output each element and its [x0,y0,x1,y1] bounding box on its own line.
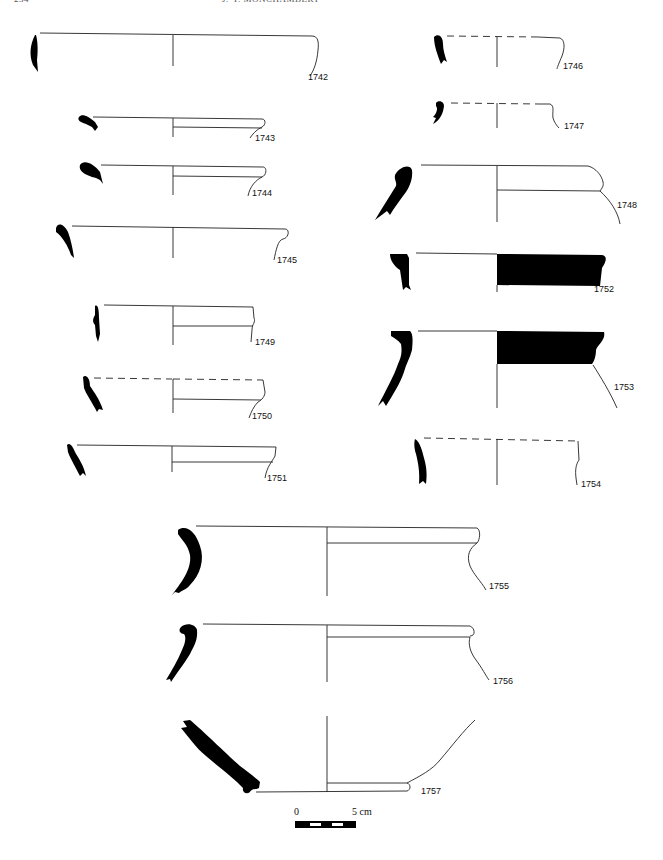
label-1753: 1753 [614,382,634,392]
profile-1745: 1745 [56,225,297,265]
scale-end-label: 5 cm [352,806,372,817]
label-1756: 1756 [493,676,513,686]
profile-1747: 1747 [433,101,584,131]
section-1745 [56,225,74,258]
section-1750 [83,376,103,412]
section-1746 [434,35,447,64]
profile-1742: 1742 [31,33,328,82]
label-1749: 1749 [255,337,275,347]
label-1757: 1757 [421,786,441,796]
label-1750: 1750 [252,411,272,421]
label-1747: 1747 [564,121,584,131]
profile-1757: 1757 [181,716,475,796]
section-1748 [375,167,412,220]
label-1742: 1742 [308,72,328,82]
profile-1754: 1754 [414,438,601,489]
label-1743: 1743 [255,133,275,143]
section-1751 [67,444,86,476]
painted-band-1753 [497,331,604,364]
section-1749 [93,306,100,342]
profile-1746: 1746 [434,35,583,71]
section-1754 [414,439,426,484]
label-1744: 1744 [252,188,272,198]
profile-1751: 1751 [67,444,287,483]
profile-1749: 1749 [93,305,275,347]
section-1752 [390,254,411,290]
profile-1752: 1752 [390,253,614,294]
label-1752: 1752 [594,284,614,294]
section-1747 [433,101,444,124]
section-1753 [378,331,413,406]
painted-band-1752 [497,254,606,286]
label-1754: 1754 [581,479,601,489]
profile-1743: 1743 [78,115,275,143]
profile-1756: 1756 [166,624,513,686]
profile-1748: 1748 [375,165,637,224]
section-1743 [78,115,98,131]
section-1757 [181,720,260,793]
label-1751: 1751 [267,473,287,483]
profile-1753: 1753 [378,331,634,408]
label-1755: 1755 [489,581,509,591]
section-1742 [31,35,38,72]
section-1744 [80,162,103,184]
section-1755 [172,528,202,595]
pottery-plate: 1742 1743 1744 1745 1749 [0,0,663,860]
scale-start-label: 0 [294,806,299,817]
profile-1744: 1744 [80,162,272,198]
profile-1750: 1750 [83,376,272,421]
section-1756 [166,624,197,682]
label-1746: 1746 [563,61,583,71]
label-1748: 1748 [617,200,637,210]
scale-bar: 0 5 cm [294,806,372,828]
label-1745: 1745 [277,255,297,265]
profile-1755: 1755 [172,526,509,596]
